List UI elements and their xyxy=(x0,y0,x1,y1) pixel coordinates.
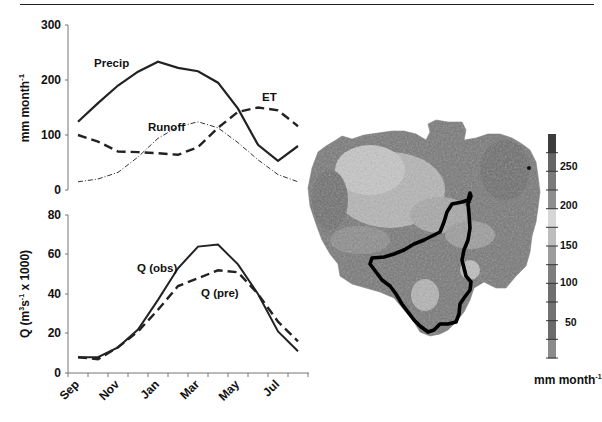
bottom-ytick-20: 20 xyxy=(48,326,62,340)
q-pre-line xyxy=(78,270,298,359)
top-ytick-0: 0 xyxy=(54,183,61,197)
basin-map xyxy=(300,115,545,345)
xtick-sep: Sep xyxy=(57,377,82,402)
xtick-jan: Jan xyxy=(138,377,163,402)
q-pre-label: Q (pre) xyxy=(201,287,239,299)
bottom-chart: 80 60 40 20 0 Q (m3s-1 x 1000) Sep Nov J… xyxy=(18,208,309,404)
top-ytick-100: 100 xyxy=(41,128,61,142)
top-ytick-200: 200 xyxy=(41,73,61,87)
colorbar-tick-250: 250 xyxy=(560,160,578,172)
colorbar-tick-150: 150 xyxy=(560,239,578,251)
precip-line xyxy=(78,62,298,161)
map-dark-spot xyxy=(527,166,531,170)
et-label: ET xyxy=(262,91,277,103)
bottom-y-axis-title: Q (m3s-1 x 1000) xyxy=(18,250,32,338)
top-y-axis-title: mm month-1 xyxy=(17,73,32,142)
colorbar-tick-50: 50 xyxy=(565,316,577,328)
top-chart: 300 200 100 0 mm month-1 Precip ET Runof… xyxy=(17,18,298,197)
colorbar-tick-200: 200 xyxy=(560,199,578,211)
xtick-may: May xyxy=(216,377,243,404)
bottom-ytick-40: 40 xyxy=(48,287,62,301)
bottom-ytick-0: 0 xyxy=(54,366,61,380)
bottom-ytick-80: 80 xyxy=(48,208,62,222)
xtick-mar: Mar xyxy=(177,377,202,402)
bottom-x-tick-labels: Sep Nov Jan Mar May Jul xyxy=(57,377,282,404)
q-obs-label: Q (obs) xyxy=(137,262,177,274)
xtick-nov: Nov xyxy=(96,377,122,403)
et-line xyxy=(78,108,298,155)
bottom-ytick-60: 60 xyxy=(48,247,62,261)
top-ytick-300: 300 xyxy=(41,18,61,32)
q-obs-line xyxy=(78,245,298,358)
precip-label: Precip xyxy=(94,57,129,69)
xtick-jul: Jul xyxy=(260,377,282,399)
colorbar-tick-100: 100 xyxy=(560,276,578,288)
runoff-label: Runoff xyxy=(148,121,185,133)
colorbar-unit-label: mm month-1 xyxy=(534,373,602,387)
